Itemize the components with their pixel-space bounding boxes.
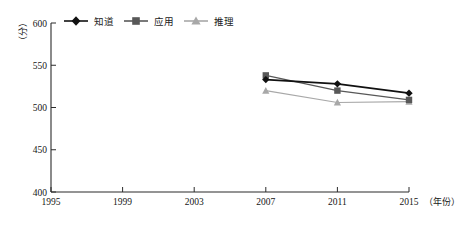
y-tick-label-400: 400 bbox=[33, 188, 48, 198]
x-tick-label-2003: 2003 bbox=[185, 197, 204, 207]
diamond-icon bbox=[72, 16, 81, 26]
data-point-diamond bbox=[405, 89, 412, 96]
legend-label-apply: 应用 bbox=[154, 16, 174, 27]
legend-label-reason: 推理 bbox=[214, 16, 234, 27]
line-chart-figure: 600 550 500 450 400 （分） 1995 1999 2003 2… bbox=[0, 0, 473, 225]
x-tick-label-1999: 1999 bbox=[113, 197, 132, 207]
y-tick-label-450: 450 bbox=[33, 145, 48, 155]
series-apply-markers bbox=[263, 72, 413, 103]
legend-item-reason[interactable]: 推理 bbox=[184, 16, 234, 27]
x-tick-label-1995: 1995 bbox=[42, 197, 61, 207]
series-apply bbox=[263, 72, 413, 103]
y-tick-label-500: 500 bbox=[33, 103, 48, 113]
y-tick-label-600: 600 bbox=[33, 19, 48, 29]
chart-canvas: 600 550 500 450 400 （分） 1995 1999 2003 2… bbox=[0, 0, 473, 225]
square-icon bbox=[132, 17, 140, 25]
legend-label-know: 知道 bbox=[94, 16, 114, 27]
y-axis-ticks: 600 550 500 450 400 bbox=[33, 19, 56, 198]
y-axis-unit-label: （分） bbox=[18, 18, 28, 45]
x-tick-label-2011: 2011 bbox=[328, 197, 347, 207]
x-axis-unit-label: （年份） bbox=[424, 196, 460, 207]
x-tick-label-2015: 2015 bbox=[400, 197, 419, 207]
chart-legend: 知道 应用 推理 bbox=[64, 16, 234, 27]
data-point-square bbox=[406, 97, 412, 103]
data-point-triangle bbox=[262, 87, 269, 94]
y-tick-label-550: 550 bbox=[33, 61, 48, 71]
x-axis-ticks: 1995 1999 2003 2007 2011 2015 bbox=[42, 187, 419, 207]
data-point-diamond bbox=[334, 80, 341, 87]
legend-item-apply[interactable]: 应用 bbox=[124, 16, 174, 27]
legend-item-know[interactable]: 知道 bbox=[64, 16, 114, 27]
data-point-square bbox=[334, 87, 340, 93]
x-tick-label-2007: 2007 bbox=[256, 197, 275, 207]
